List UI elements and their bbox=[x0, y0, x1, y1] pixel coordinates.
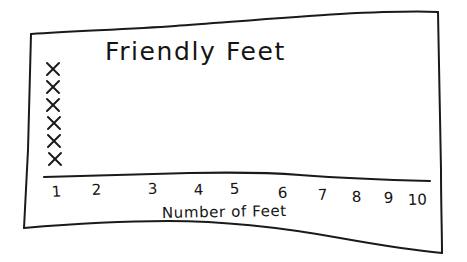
chart-title: Friendly Feet bbox=[105, 37, 286, 66]
tick-label-3: 3 bbox=[148, 180, 158, 198]
frame-top-border bbox=[31, 12, 438, 34]
x-mark bbox=[48, 117, 60, 129]
tick-label-9: 9 bbox=[384, 189, 394, 207]
x-mark bbox=[47, 81, 59, 93]
frame-bottom-border bbox=[24, 221, 442, 253]
tick-label-8: 8 bbox=[352, 188, 362, 206]
x-axis-title: Number of Feet bbox=[162, 202, 287, 222]
frame-right-border bbox=[438, 12, 442, 253]
tick-label-4: 4 bbox=[194, 181, 204, 199]
x-mark-stack bbox=[47, 63, 61, 165]
tick-label-2: 2 bbox=[91, 181, 101, 199]
tick-label-5: 5 bbox=[230, 180, 240, 198]
x-mark bbox=[47, 63, 59, 75]
chart-canvas: Friendly Feet bbox=[0, 0, 467, 262]
x-mark bbox=[47, 99, 59, 111]
x-mark bbox=[48, 135, 60, 147]
tick-label-6: 6 bbox=[278, 184, 288, 202]
tick-label-1: 1 bbox=[51, 182, 62, 201]
x-mark bbox=[49, 153, 61, 165]
handdrawn-chart-figure: Friendly Feet bbox=[0, 0, 467, 262]
tick-label-7: 7 bbox=[318, 186, 328, 204]
tick-label-10: 10 bbox=[408, 190, 428, 209]
frame-left-border bbox=[24, 34, 31, 228]
